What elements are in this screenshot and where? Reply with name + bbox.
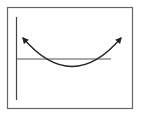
frame-border xyxy=(8,8,133,109)
parabola-diagram xyxy=(0,0,145,115)
parabola-curve xyxy=(23,38,121,67)
